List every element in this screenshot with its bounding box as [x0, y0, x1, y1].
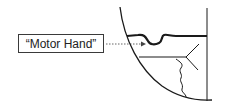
dotted-arrow-icon — [106, 42, 146, 47]
wavy-line — [176, 59, 186, 97]
outer-arc — [120, 7, 212, 100]
anatomical-diagram — [0, 0, 225, 110]
branch-lower — [186, 57, 198, 70]
branch-upper — [186, 44, 199, 57]
thick-surface-line — [127, 35, 207, 45]
